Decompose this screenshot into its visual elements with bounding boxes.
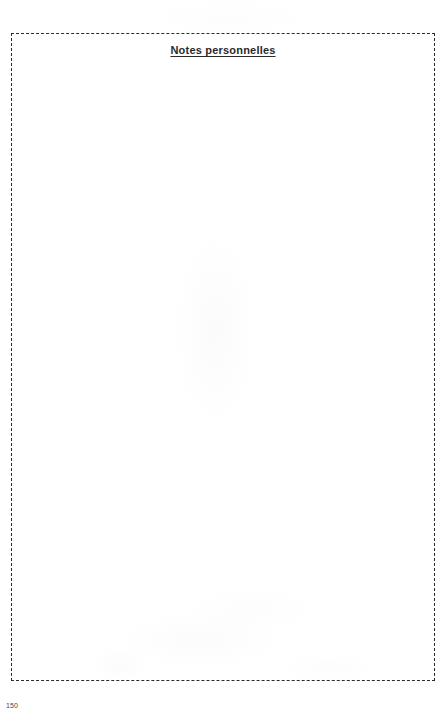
notes-title-container: Notes personnelles <box>12 40 434 58</box>
page-number: 150 <box>6 701 18 711</box>
personal-notes-frame: Notes personnelles <box>11 33 435 681</box>
notes-writing-area[interactable] <box>12 62 434 680</box>
page-title: Notes personnelles <box>170 44 275 56</box>
scanned-page: Notes personnelles 150 <box>0 0 448 717</box>
